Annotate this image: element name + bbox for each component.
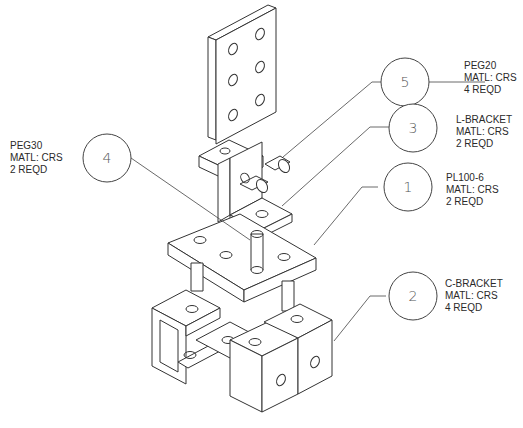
material: MATL: CRS bbox=[10, 152, 63, 164]
callout-note-l-bracket: L-BRACKET MATL: CRS 2 REQD bbox=[456, 114, 512, 150]
balloon-3: 3 bbox=[389, 104, 437, 152]
svg-text:1: 1 bbox=[404, 179, 413, 195]
quantity: 2 REQD bbox=[446, 196, 499, 208]
callout-note-peg20: PEG20 MATL: CRS 4 REQD bbox=[464, 60, 517, 96]
material: MATL: CRS bbox=[446, 184, 499, 196]
balloon-2: 2 bbox=[389, 272, 437, 320]
svg-text:5: 5 bbox=[401, 74, 410, 90]
quantity: 2 REQD bbox=[10, 164, 63, 176]
material: MATL: CRS bbox=[464, 72, 517, 84]
balloon-4: 4 bbox=[83, 134, 131, 182]
quantity: 4 REQD bbox=[445, 302, 503, 314]
vertical-plate bbox=[208, 5, 276, 144]
quantity: 2 REQD bbox=[456, 138, 512, 150]
balloon-5: 5 bbox=[381, 58, 429, 106]
quantity: 4 REQD bbox=[464, 84, 517, 96]
part-name: PEG30 bbox=[10, 140, 63, 152]
part-name: PEG20 bbox=[464, 60, 517, 72]
balloon-1: 1 bbox=[384, 163, 432, 211]
part-name: PL100-6 bbox=[446, 172, 499, 184]
material: MATL: CRS bbox=[456, 126, 512, 138]
callout-note-plate: PL100-6 MATL: CRS 2 REQD bbox=[446, 172, 499, 208]
isometric-assembly-drawing: 5 3 1 4 2 bbox=[0, 0, 523, 428]
c-brackets bbox=[152, 290, 332, 412]
svg-text:4: 4 bbox=[103, 150, 112, 166]
part-name: C-BRACKET bbox=[445, 278, 503, 290]
part-name: L-BRACKET bbox=[456, 114, 512, 126]
material: MATL: CRS bbox=[445, 290, 503, 302]
svg-text:2: 2 bbox=[409, 288, 418, 304]
svg-text:3: 3 bbox=[409, 120, 418, 136]
callout-note-peg30: PEG30 MATL: CRS 2 REQD bbox=[10, 140, 63, 176]
callout-note-c-bracket: C-BRACKET MATL: CRS 4 REQD bbox=[445, 278, 503, 314]
